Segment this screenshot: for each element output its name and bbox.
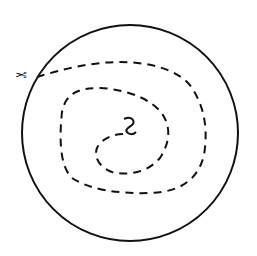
- scissors-icon: ✂: [15, 68, 27, 82]
- dashed-spiral-cut-line: [37, 62, 206, 193]
- center-curl: [124, 118, 136, 134]
- spiral-cut-diagram: [0, 0, 257, 256]
